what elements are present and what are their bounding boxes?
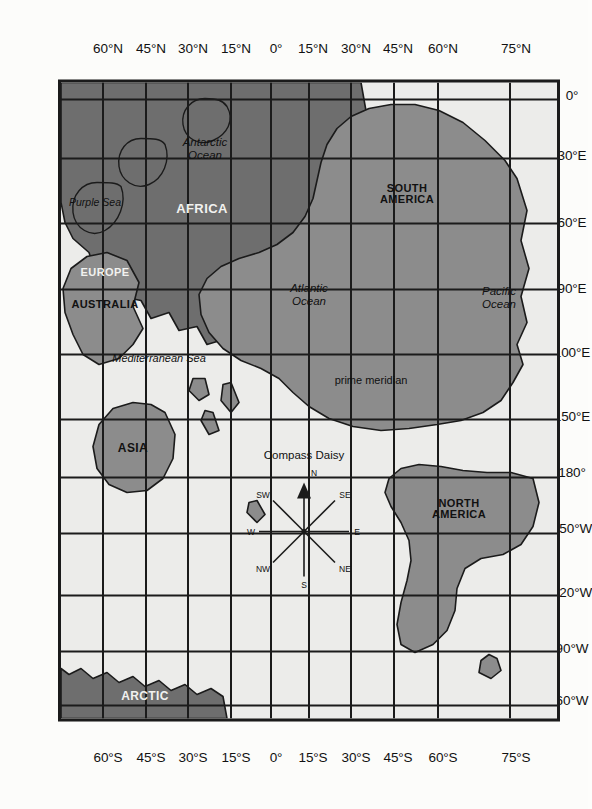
compass-dir-se: SE [339, 489, 350, 499]
parallel-line [509, 82, 511, 718]
compass-dir-e: E [354, 526, 360, 536]
lon-tick-90W: 90°W [556, 641, 589, 656]
lat-tick-left-45N: 45°N [383, 41, 413, 56]
compass-dir-s: S [301, 579, 307, 589]
lat-tick-right-45S: 45°S [383, 750, 412, 765]
compass-title: Compass Daisy [264, 448, 345, 460]
landmass-north-america [385, 464, 539, 652]
parallel-line [393, 82, 395, 718]
landmass-island-3 [201, 410, 219, 434]
landmass-asia [93, 402, 175, 492]
compass-dir-sw: SW [256, 489, 270, 499]
lon-tick-180: 180° [558, 465, 586, 480]
lat-tick-left-30N-b: 30°N [178, 41, 208, 56]
lat-tick-right-75S: 75°S [501, 750, 530, 765]
landmass-island-2 [189, 378, 209, 400]
lon-tick-30E: 30°E [557, 148, 586, 163]
compass-north-arrowhead [297, 482, 311, 498]
parallel-line [145, 82, 147, 718]
lat-tick-left-15N-b: 15°N [221, 41, 251, 56]
lat-tick-right-45S-b: 45°S [136, 750, 165, 765]
lon-tick-90E: 90°E [557, 281, 586, 296]
lat-tick-right-30S-b: 30°S [178, 750, 207, 765]
lat-tick-left-60N: 60°N [428, 41, 458, 56]
lat-tick-right-15S: 15°S [298, 750, 327, 765]
parallel-line-equator [270, 82, 272, 718]
lat-tick-left-0: 0° [270, 41, 283, 56]
lat-tick-left-30N: 30°N [341, 41, 371, 56]
parallel-line [102, 82, 104, 718]
lat-tick-left-15N: 15°N [298, 41, 328, 56]
lon-tick-60W: 60°W [556, 693, 589, 708]
lat-tick-left-75N: 75°N [501, 41, 531, 56]
map-frame[interactable]: SOUTH AMERICA NORTH AMERICA AFRICA EUROP… [58, 79, 560, 721]
compass-rose[interactable]: Compass Daisy N NE E [249, 476, 359, 586]
lat-tick-right-60S: 60°S [428, 750, 457, 765]
parallel-line [187, 82, 189, 718]
lat-tick-right-15S-b: 15°S [221, 750, 250, 765]
lat-tick-left-45N-b: 45°N [136, 41, 166, 56]
lon-tick-0: 0° [566, 88, 579, 103]
parallel-line [230, 82, 232, 718]
landmass-island-1 [479, 654, 501, 678]
lon-tick-60E: 60°E [557, 215, 586, 230]
compass-dir-nw: NW [256, 563, 270, 573]
map-canvas: SOUTH AMERICA NORTH AMERICA AFRICA EUROP… [61, 82, 557, 718]
landmass-arctic [61, 668, 227, 718]
compass-dir-n: N [311, 467, 317, 477]
parallel-line [350, 82, 352, 718]
parallel-line [437, 82, 439, 718]
lat-tick-right-30S: 30°S [341, 750, 370, 765]
lat-tick-right-60S-b: 60°S [93, 750, 122, 765]
lat-tick-right-0: 0° [270, 750, 283, 765]
compass-dir-w: W [247, 526, 255, 536]
lat-tick-left-60N-b: 60°N [93, 41, 123, 56]
compass-dir-ne: NE [339, 563, 351, 573]
parallel-line [308, 82, 310, 718]
